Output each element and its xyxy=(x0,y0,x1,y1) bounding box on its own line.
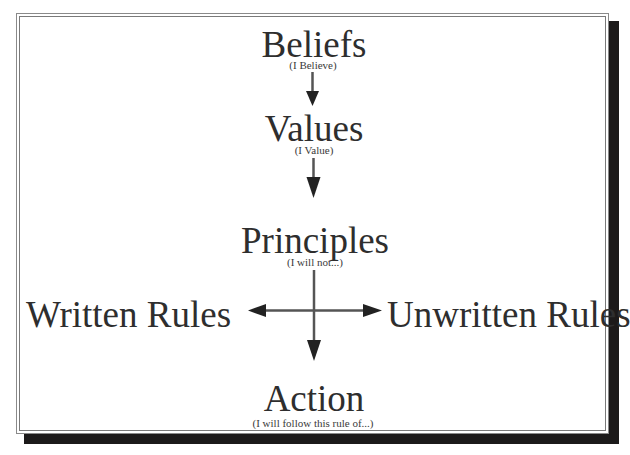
node-beliefs-title: Beliefs xyxy=(262,26,367,63)
node-beliefs-subtitle: (I Believe) xyxy=(289,60,336,71)
node-unwritten-rules-title: Unwritten Rules xyxy=(387,296,630,333)
node-action-title: Action xyxy=(264,380,365,417)
node-principles-title: Principles xyxy=(241,222,389,259)
node-values-title: Values xyxy=(265,110,364,147)
node-action-subtitle: (I will follow this rule of...) xyxy=(253,418,374,429)
node-principles-subtitle: (I will not...) xyxy=(287,257,343,268)
node-values-subtitle: (I Value) xyxy=(295,145,334,156)
node-written-rules-title: Written Rules xyxy=(26,296,231,333)
